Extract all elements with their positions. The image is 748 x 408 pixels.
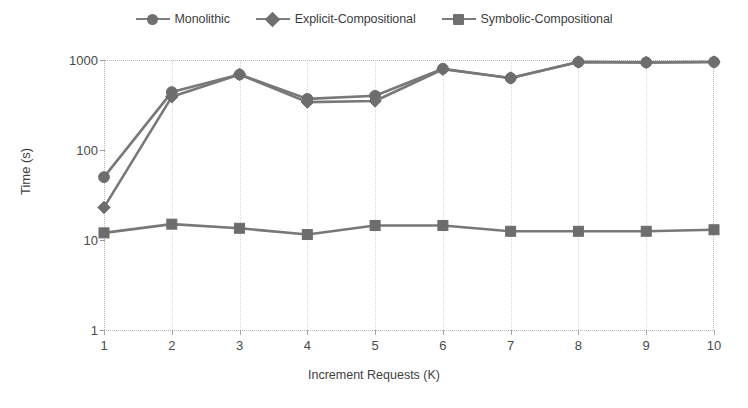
y-tick-label: 1000: [50, 53, 104, 68]
plot-border-right: [713, 60, 714, 330]
legend-label-monolithic: Monolithic: [175, 12, 230, 26]
x-tick-label: 1: [100, 338, 107, 353]
x-axis-title: Increment Requests (K): [0, 368, 748, 382]
y-axis-line: [104, 60, 105, 330]
y-tick-mark: [100, 150, 105, 151]
x-axis-line: [104, 330, 715, 331]
x-gridline: [375, 60, 376, 330]
x-gridline: [511, 60, 512, 330]
y-axis-title: Time (s): [18, 148, 33, 195]
y-tick-mark: [100, 60, 105, 61]
plot-border-top: [104, 60, 714, 61]
legend-label-explicit-compositional: Explicit-Compositional: [295, 12, 416, 26]
x-tick-mark: [172, 330, 173, 335]
x-gridline: [646, 60, 647, 330]
plot-area: [104, 60, 714, 330]
legend-item-symbolic-compositional: Symbolic-Compositional: [442, 12, 613, 26]
x-tick-mark: [511, 330, 512, 335]
x-tick-label: 10: [707, 338, 721, 353]
chart-container: Monolithic Explicit-Compositional Symbol…: [0, 0, 748, 408]
x-tick-mark: [578, 330, 579, 335]
legend-marker-diamond-icon: [256, 12, 290, 26]
x-gridline: [307, 60, 308, 330]
x-tick-label: 7: [507, 338, 514, 353]
x-tick-mark: [104, 330, 105, 335]
x-tick-label: 6: [439, 338, 446, 353]
legend-item-explicit-compositional: Explicit-Compositional: [256, 12, 416, 26]
legend-label-symbolic-compositional: Symbolic-Compositional: [481, 12, 613, 26]
x-tick-label: 3: [236, 338, 243, 353]
y-tick-mark: [100, 240, 105, 241]
x-tick-label: 5: [371, 338, 378, 353]
x-tick-mark: [714, 330, 715, 335]
chart-legend: Monolithic Explicit-Compositional Symbol…: [0, 12, 748, 26]
x-tick-mark: [443, 330, 444, 335]
x-gridline: [443, 60, 444, 330]
x-tick-label: 8: [575, 338, 582, 353]
x-tick-label: 2: [168, 338, 175, 353]
x-tick-label: 4: [304, 338, 311, 353]
y-tick-label: 10: [50, 233, 104, 248]
legend-marker-circle-icon: [136, 12, 170, 26]
x-gridline: [240, 60, 241, 330]
x-tick-label: 9: [643, 338, 650, 353]
x-tick-mark: [375, 330, 376, 335]
x-tick-mark: [646, 330, 647, 335]
y-tick-label: 100: [50, 143, 104, 158]
legend-item-monolithic: Monolithic: [136, 12, 230, 26]
y-tick-label: 1: [50, 323, 104, 338]
x-tick-mark: [240, 330, 241, 335]
x-tick-mark: [307, 330, 308, 335]
x-gridline: [172, 60, 173, 330]
legend-marker-square-icon: [442, 12, 476, 26]
x-gridline: [578, 60, 579, 330]
